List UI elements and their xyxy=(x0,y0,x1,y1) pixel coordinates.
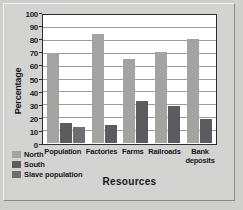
x-axis-tick-label: Railroads xyxy=(148,147,180,171)
y-axis-tick-mark xyxy=(39,92,42,93)
legend-item: South xyxy=(12,160,82,169)
y-axis-tick-label: 80 xyxy=(30,36,38,45)
y-axis-tick-label: 40 xyxy=(30,88,38,97)
y-axis-tick-label: 100 xyxy=(26,10,38,19)
legend-label: North xyxy=(24,150,44,159)
y-axis-tick-mark xyxy=(39,144,42,145)
y-axis-tick-mark xyxy=(39,13,42,14)
chart-legend: NorthSouthSlave population xyxy=(12,150,82,180)
y-axis-tick-label: 0 xyxy=(34,141,38,150)
bar xyxy=(123,59,135,143)
plot-area xyxy=(42,14,217,145)
y-axis-tick-label: 10 xyxy=(30,127,38,136)
x-axis-tick-label: Farms xyxy=(122,147,144,171)
bar-group xyxy=(123,16,148,143)
y-axis-tick-mark xyxy=(39,65,42,66)
legend-swatch xyxy=(12,151,21,158)
y-axis-tick-label: 30 xyxy=(30,101,38,110)
y-axis-tick-mark xyxy=(39,105,42,106)
legend-swatch xyxy=(12,161,21,168)
y-axis-label: Percentage xyxy=(13,56,23,126)
bar-group xyxy=(187,16,212,143)
bar xyxy=(73,127,85,144)
bar-group xyxy=(155,16,180,143)
y-axis-tick-mark xyxy=(39,79,42,80)
plot-area-wrapper: 0102030405060708090100 xyxy=(42,14,217,145)
bar xyxy=(60,123,72,143)
bar xyxy=(105,125,117,143)
x-axis-tick-label: Factories xyxy=(86,147,118,171)
legend-label: Slave population xyxy=(24,170,82,179)
y-axis-tick-mark xyxy=(39,131,42,132)
bar xyxy=(187,39,199,143)
y-axis-tick-mark xyxy=(39,118,42,119)
y-axis-tick-label: 60 xyxy=(30,62,38,71)
bar xyxy=(92,34,104,143)
bar xyxy=(200,119,212,143)
y-axis-tick-label: 90 xyxy=(30,23,38,32)
y-axis-tick-label: 70 xyxy=(30,49,38,58)
bar-group xyxy=(47,16,85,143)
bar xyxy=(136,101,148,143)
legend-item: North xyxy=(12,150,82,159)
legend-label: South xyxy=(24,160,45,169)
bar-group xyxy=(92,16,117,143)
bar xyxy=(168,106,180,143)
chart-figure: Percentage 0102030405060708090100 Popula… xyxy=(0,0,243,210)
legend-swatch xyxy=(12,171,21,178)
y-axis-tick-mark xyxy=(39,26,42,27)
legend-item: Slave population xyxy=(12,170,82,179)
y-axis-tick-label: 50 xyxy=(30,75,38,84)
y-axis-tick-mark xyxy=(39,39,42,40)
bar xyxy=(47,53,59,143)
y-axis-tick-label: 20 xyxy=(30,114,38,123)
bar-groups xyxy=(44,16,215,143)
bar xyxy=(155,52,167,143)
x-axis-tick-label: Bank deposits xyxy=(185,147,214,171)
y-axis-tick-mark xyxy=(39,52,42,53)
chart-panel: Percentage 0102030405060708090100 Popula… xyxy=(3,3,235,201)
